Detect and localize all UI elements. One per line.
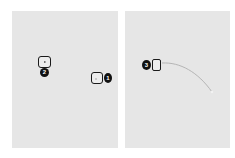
play-triangle-icon <box>44 61 46 63</box>
marker-1-box <box>91 72 103 84</box>
marker-2-badge: 2 <box>40 68 49 77</box>
marker-3-box <box>152 59 161 71</box>
diagram-stage: 2 1 3 <box>0 0 235 158</box>
marker-3-badge: 3 <box>142 60 151 70</box>
marker-2-box <box>38 56 51 68</box>
marker-1-badge: 1 <box>104 73 112 83</box>
right-panel <box>125 11 230 148</box>
empty-square-icon <box>95 78 97 80</box>
